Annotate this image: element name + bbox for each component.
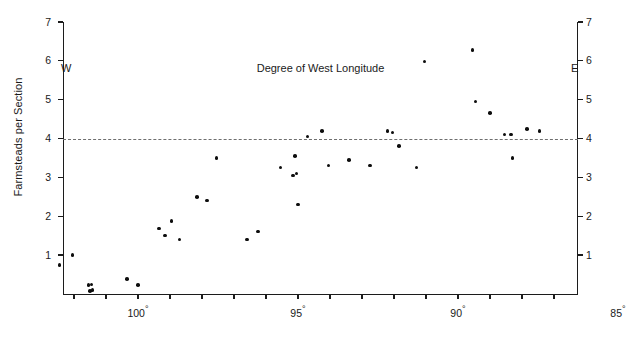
data-point	[195, 195, 199, 199]
data-point	[125, 277, 129, 281]
y-tick-left-2	[58, 216, 63, 217]
y-tick-label-left-1: 1	[25, 250, 51, 261]
y-tick-left-3	[58, 177, 63, 178]
y-tick-label-right-5: 5	[586, 94, 612, 105]
data-point	[386, 129, 390, 133]
data-point	[295, 172, 299, 176]
data-point	[205, 199, 209, 203]
data-point	[58, 263, 62, 267]
data-point	[347, 158, 351, 162]
y-tick-label-right-6: 6	[586, 55, 612, 66]
y-tick-right-6	[578, 60, 583, 61]
y-tick-right-2	[578, 216, 583, 217]
data-point	[320, 129, 324, 133]
data-point	[525, 127, 529, 131]
x-tick-91	[425, 294, 426, 299]
y-tick-label-left-2: 2	[25, 211, 51, 222]
y-tick-right-3	[578, 177, 583, 178]
data-point	[279, 166, 283, 170]
x-tick-88	[521, 294, 522, 299]
data-point	[90, 283, 94, 287]
x-tick-95	[297, 294, 298, 299]
plot-area: 1234567 1234567 100°95°90°85° W E Degree…	[63, 22, 578, 295]
y-tick-left-1	[58, 254, 63, 255]
y-axis-title-text: Farmsteads per Section	[12, 77, 24, 196]
data-point	[170, 219, 174, 223]
x-tick-90	[457, 294, 458, 299]
data-point	[291, 174, 295, 178]
data-point	[474, 100, 478, 104]
x-tick-label-90: 90°	[438, 304, 478, 318]
y-axis-title: Farmsteads per Section	[10, 0, 26, 273]
y-tick-right-4	[578, 138, 583, 139]
data-point	[488, 111, 492, 115]
x-tick-97	[233, 294, 234, 299]
data-point	[245, 238, 249, 242]
y-tick-right-1	[578, 254, 583, 255]
data-point	[136, 283, 140, 287]
x-tick-label-100: 100°	[118, 304, 158, 318]
y-tick-label-right-2: 2	[586, 211, 612, 222]
scatter-chart-figure: 1234567 1234567 100°95°90°85° W E Degree…	[0, 0, 626, 338]
data-point	[538, 129, 542, 133]
data-point	[509, 133, 513, 137]
x-tick-94	[329, 294, 330, 299]
y-tick-label-left-5: 5	[25, 94, 51, 105]
x-tick-label-95: 95°	[278, 304, 318, 318]
data-point	[71, 253, 75, 257]
y-tick-right-5	[578, 99, 583, 100]
data-point	[368, 164, 372, 168]
y-tick-right-7	[578, 21, 583, 22]
data-point	[391, 131, 395, 135]
x-tick-96	[265, 294, 266, 299]
y-tick-label-right-3: 3	[586, 172, 612, 183]
data-point	[327, 164, 331, 168]
x-tick-100	[137, 294, 138, 299]
x-tick-101	[105, 294, 106, 299]
y-tick-label-left-4: 4	[25, 133, 51, 144]
x-tick-92	[393, 294, 394, 299]
data-point	[397, 144, 401, 148]
y-tick-label-right-4: 4	[586, 133, 612, 144]
data-point	[293, 154, 297, 158]
y-tick-label-left-3: 3	[25, 172, 51, 183]
y-tick-label-left-7: 7	[25, 17, 51, 28]
x-tick-99	[169, 294, 170, 299]
data-point	[471, 48, 475, 52]
y-tick-left-7	[58, 21, 63, 22]
x-tick-98	[201, 294, 202, 299]
x-axis-title: Degree of West Longitude	[63, 62, 578, 74]
y-tick-label-right-7: 7	[586, 17, 612, 28]
data-point	[511, 156, 515, 160]
y-tick-label-right-1: 1	[586, 250, 612, 261]
data-point	[178, 238, 182, 242]
data-point	[296, 203, 300, 207]
y-tick-left-5	[58, 99, 63, 100]
x-tick-93	[361, 294, 362, 299]
x-tick-label-85: 85°	[598, 304, 626, 318]
x-tick-89	[489, 294, 490, 299]
data-point	[215, 156, 219, 160]
data-point	[88, 289, 92, 293]
data-point	[256, 230, 260, 234]
x-tick-102	[73, 294, 74, 299]
x-tick-87	[553, 294, 554, 299]
reference-line	[63, 139, 578, 140]
y-tick-label-left-6: 6	[25, 55, 51, 66]
data-point	[503, 133, 507, 137]
data-point	[157, 227, 161, 231]
x-axis-line	[63, 294, 578, 295]
data-point	[163, 234, 167, 238]
data-point	[415, 166, 419, 170]
